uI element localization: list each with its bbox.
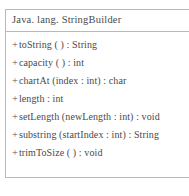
member-row[interactable]: + chartAt (index : int) : char: [6, 75, 189, 93]
member-row[interactable]: + setLength (newLength : int) : void: [6, 111, 189, 129]
visibility-public-icon: +: [12, 57, 18, 68]
member-signature: setLength (newLength : int) : void: [19, 112, 160, 122]
member-row[interactable]: + substring (startIndex : int) : String: [6, 129, 189, 147]
member-row[interactable]: + capacity ( ) : int: [6, 57, 189, 75]
member-signature: capacity ( ) : int: [19, 58, 84, 68]
uml-class-diagram-canvas: Java. lang. StringBuilder + toString ( )…: [0, 0, 189, 196]
visibility-public-icon: +: [12, 93, 18, 104]
member-row[interactable]: + trimToSize ( ) : void: [6, 147, 189, 165]
visibility-public-icon: +: [12, 75, 18, 86]
member-signature: chartAt (index : int) : char: [19, 76, 126, 86]
class-box-stringbuilder[interactable]: Java. lang. StringBuilder + toString ( )…: [5, 9, 189, 178]
visibility-public-icon: +: [12, 39, 18, 50]
class-name: Java. lang. StringBuilder: [12, 15, 121, 26]
visibility-public-icon: +: [12, 111, 18, 122]
member-row[interactable]: + toString ( ) : String: [6, 39, 189, 57]
member-signature: substring (startIndex : int) : String: [19, 130, 159, 140]
visibility-public-icon: +: [12, 129, 18, 140]
member-signature: length : int: [19, 94, 64, 104]
class-header-compartment: Java. lang. StringBuilder: [6, 10, 189, 32]
member-row[interactable]: + length : int: [6, 93, 189, 111]
member-signature: trimToSize ( ) : void: [19, 148, 103, 158]
member-signature: toString ( ) : String: [19, 40, 97, 50]
class-members-compartment: + toString ( ) : String + capacity ( ) :…: [6, 32, 189, 165]
visibility-public-icon: +: [12, 147, 18, 158]
